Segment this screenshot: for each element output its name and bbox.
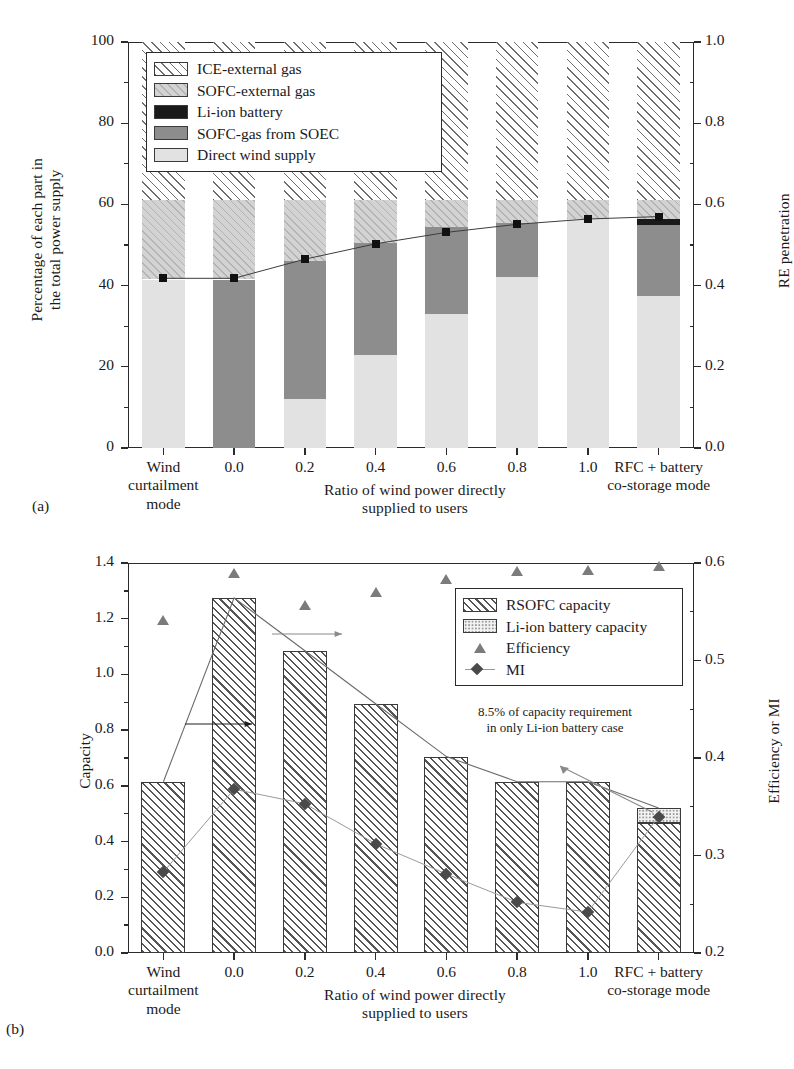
panel-a-x-tick [304,448,305,455]
panel-a-left-tick-label: 80 [99,112,115,130]
panel-b-left-tick [121,785,128,786]
panel-a-re-penetration-marker [159,274,167,282]
panel-b-category-label: 0.8 [507,963,526,981]
panel-b-left-tick [121,562,128,563]
panel-a-bar [637,42,679,448]
panel-b-right-tick-label: 0.3 [705,845,724,863]
panel-a-bar [496,42,538,448]
panel-b-x-tick [658,953,659,960]
panel-b-left-tick-label: 1.2 [95,608,114,626]
panel-a-right-minor-tick [690,82,694,83]
panel-b-left-minor-tick [124,869,128,870]
panel-b-x-tick [587,953,588,960]
panel-a: Percentage of each part in the total pow… [0,0,794,520]
panel-b-category-label: 0.2 [295,963,314,981]
triangle-icon [474,643,486,653]
panel-a-bar-segment [142,200,184,279]
panel-b-left-tick [121,618,128,619]
panel-a-bar-segment [637,42,679,200]
panel-a-x-tick [163,448,164,455]
panel-a-re-penetration-marker [513,220,521,228]
panel-b-category-label: 1.0 [578,963,597,981]
panel-b-x-axis-title: Ratio of wind power directly supplied to… [250,986,580,1022]
panel-a-left-tick-label: 40 [99,275,115,293]
panel-a-right-tick-label: 0.6 [705,193,724,211]
panel-b-right-tick-label: 0.5 [705,650,724,668]
panel-b-efficiency-marker [582,565,594,575]
panel-a-bar-segment [284,200,326,261]
panel-a-right-tick-label: 0.0 [705,437,724,455]
panel-a-right-minor-tick [690,163,694,164]
panel-a-right-tick [694,204,701,205]
panel-a-legend-label: Direct wind supply [197,147,316,163]
panel-b-label: (b) [6,1020,24,1038]
panel-b-efficiency-marker [653,561,665,571]
panel-b-efficiency-marker [157,615,169,625]
panel-b-efficiency-marker [370,587,382,597]
panel-b-efficiency-marker [228,568,240,578]
panel-b-legend-label: Li-ion battery capacity [506,619,647,635]
figure-page: Percentage of each part in the total pow… [0,0,794,1069]
panel-a-legend-swatch [154,62,188,76]
panel-b-legend-item: Efficiency [463,637,673,659]
panel-a-legend-item: Direct wind supply [154,144,432,166]
panel-b-left-tick-label: 0.0 [95,942,114,960]
panel-b-right-minor-tick [690,806,694,807]
panel-b-category-label: 0.0 [224,963,243,981]
panel-b-left-minor-tick [124,757,128,758]
panel-a-legend-item: ICE-external gas [154,58,432,80]
panel-b-left-tick [121,729,128,730]
panel-b-bar [212,563,256,953]
panel-a-left-minor-tick [124,244,128,245]
panel-a-re-penetration-marker [655,213,663,221]
panel-a-legend-item: SOFC-gas from SOEC [154,123,432,145]
panel-a-right-tick [694,285,701,286]
panel-b-legend-item: Li-ion battery capacity [463,616,673,638]
panel-a-left-tick-label: 0 [106,437,114,455]
panel-b-legend-item: RSOFC capacity [463,594,673,616]
panel-b-bar-segment [212,598,256,953]
panel-a-legend-label: SOFC-gas from SOEC [197,126,339,142]
panel-b-legend-swatch [463,619,497,633]
panel-b-x-tick [446,953,447,960]
panel-a-legend-swatch [154,83,188,97]
panel-a-bar-segment [354,243,396,355]
panel-a-right-tick [694,123,701,124]
panel-a-bar-segment [567,42,609,200]
panel-b-right-minor-tick [690,611,694,612]
panel-a-label: (a) [32,497,49,515]
panel-a-bar-segment [496,223,538,278]
panel-a-legend-item: Li-ion battery [154,101,432,123]
panel-b-bar-segment [424,757,468,953]
panel-a-left-tick-label: 100 [91,31,114,49]
panel-a-bar-segment [637,296,679,448]
panel-a-x-axis-title: Ratio of wind power directly supplied to… [250,481,580,517]
panel-a-category-label: 0.4 [366,458,385,476]
panel-b-y-axis-left-title: Capacity [76,666,94,856]
panel-b-x-tick [233,953,234,960]
panel-a-left-minor-tick [124,407,128,408]
panel-b-annotation-text: 8.5% of capacity requirement in only Li-… [430,704,680,735]
panel-a-legend-item: SOFC-external gas [154,80,432,102]
panel-a-right-tick-label: 0.8 [705,112,724,130]
panel-a-left-tick [121,123,128,124]
panel-a-bar-segment [425,314,467,448]
panel-a-x-tick [446,448,447,455]
panel-a-category-label: 0.0 [224,458,243,476]
panel-b-right-tick-label: 0.2 [705,942,724,960]
panel-a-left-tick [121,447,128,448]
panel-a-legend-swatch [154,148,188,162]
panel-b-x-tick [304,953,305,960]
panel-b-left-minor-tick [124,813,128,814]
panel-b-category-label: RFC + battery co-storage mode [607,963,710,1000]
panel-b-left-tick-label: 0.6 [95,775,114,793]
panel-a-left-minor-tick [124,163,128,164]
panel-a-right-tick [694,447,701,448]
panel-a-bar-segment [354,200,396,243]
panel-b-legend-item: MI [463,659,673,681]
panel-b-right-tick [694,660,701,661]
panel-a-legend-label: ICE-external gas [197,61,302,77]
panel-a-left-minor-tick [124,82,128,83]
panel-b-bar-segment [566,782,610,953]
panel-a-re-penetration-marker [230,274,238,282]
